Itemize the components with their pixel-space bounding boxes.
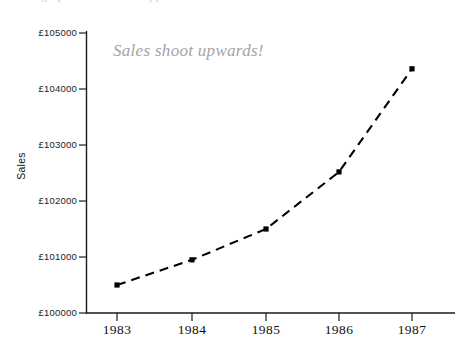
data-point-1987 (409, 66, 414, 71)
xtick-label-1985: 1985 (236, 322, 296, 338)
ytick-label-105000: £105000 (9, 27, 77, 38)
xtick-label-1983: 1983 (87, 322, 147, 338)
chart-annotation: Sales shoot upwards! (113, 41, 264, 61)
data-point-1986 (336, 169, 341, 174)
ytick-label-104000: £104000 (9, 83, 77, 94)
ytick-label-102000: £102000 (9, 195, 77, 206)
data-point-1984 (189, 257, 194, 262)
series-line-sales (117, 69, 412, 285)
series-markers-sales (114, 66, 414, 287)
ytick-label-100000: £100000 (9, 307, 77, 318)
chart-page: and the graph shows what happened to sal… (0, 0, 462, 350)
y-axis-title: Sales (15, 136, 27, 196)
xtick-label-1986: 1986 (309, 322, 369, 338)
data-point-1983 (114, 282, 119, 287)
xtick-label-1987: 1987 (382, 322, 442, 338)
ytick-label-101000: £101000 (9, 251, 77, 262)
xtick-label-1984: 1984 (162, 322, 222, 338)
data-point-1985 (263, 226, 268, 231)
x-axis-ticks (117, 313, 412, 321)
